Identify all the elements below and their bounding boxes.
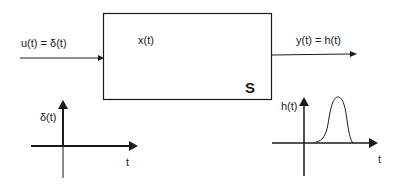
arrowhead-icon: [369, 138, 378, 148]
input-arrow: [20, 55, 104, 61]
output-plot-y-label: h(t): [281, 100, 298, 112]
input-plot-y-label: δ(t): [40, 111, 57, 123]
output-arrow: [150, 51, 357, 57]
input-label: u(t) = δ(t): [21, 37, 67, 49]
impulse-response-curve: [316, 97, 353, 143]
output-plot: h(t) t: [272, 97, 381, 176]
output-label: y(t) = h(t): [296, 34, 341, 46]
system-label: S: [245, 79, 255, 96]
output-plot-x-label: t: [378, 153, 381, 165]
input-plot-x-label: t: [126, 156, 129, 168]
impulse-response-diagram: u(t) = δ(t) x(t) y(t) = h(t) S δ(t) t h(…: [0, 0, 399, 188]
arrowhead-icon: [299, 97, 309, 106]
arrowhead-icon: [129, 141, 138, 151]
state-label: x(t): [138, 34, 154, 46]
input-plot: δ(t) t: [31, 100, 138, 178]
arrowhead-icon: [58, 100, 68, 109]
arrowhead-icon: [350, 51, 357, 57]
